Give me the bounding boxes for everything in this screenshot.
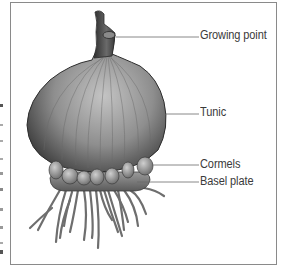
label-tunic: Tunic [200,105,226,119]
label-cormels: Cormels [200,157,240,171]
roots [30,188,164,248]
growing-point-tip [103,32,115,39]
label-growing-point: Growing point [200,28,267,42]
label-basal-plate: Basel plate [200,174,253,188]
